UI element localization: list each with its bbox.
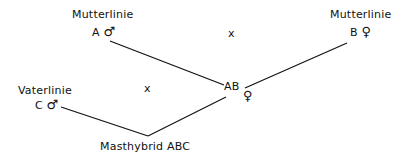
- line-a-label: A ♂: [92, 26, 115, 39]
- male-symbol-icon: ♂: [47, 97, 59, 112]
- edge-b-to-ab: [245, 43, 347, 88]
- line-c-letter: C: [35, 99, 43, 112]
- line-a-letter: A: [92, 26, 100, 39]
- line-b-label: B ♀: [350, 26, 371, 39]
- line-a-title: Mutterlinie: [72, 9, 134, 21]
- line-b-title: Mutterlinie: [330, 9, 392, 21]
- cross-ab-letter: AB: [224, 81, 239, 93]
- female-symbol-icon: ♀: [361, 24, 371, 39]
- line-c-label: C ♂: [35, 99, 58, 112]
- line-b-letter: B: [350, 26, 358, 39]
- female-symbol-icon: ♀: [243, 90, 253, 102]
- line-c-title: Vaterlinie: [18, 85, 72, 97]
- result-label: Masthybrid ABC: [100, 141, 190, 153]
- edge-a-to-ab: [110, 41, 224, 85]
- edge-c-to-result: [61, 107, 148, 136]
- male-symbol-icon: ♂: [103, 24, 115, 39]
- edge-ab-to-result: [148, 97, 226, 136]
- cross-mark-top: x: [228, 28, 235, 40]
- connector-lines: [0, 0, 405, 159]
- cross-mark-bottom: x: [144, 83, 151, 95]
